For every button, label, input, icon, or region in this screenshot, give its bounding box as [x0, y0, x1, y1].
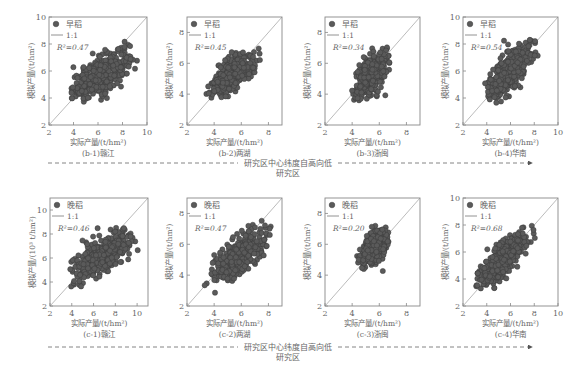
x-tick-label: 4 [212, 128, 217, 137]
x-tick-label: 6 [508, 309, 513, 318]
legend-series-label: 早稻 [480, 19, 496, 29]
x-axis-label: 实际产量/(t/hm²) [206, 137, 263, 147]
x-tick-label: 10 [553, 309, 563, 318]
scatter-panel-c-2: 24682468晚稻1:1R²=0.47实际产量/(t/hm²)模拟产量/(t/… [164, 198, 282, 339]
legend: 晚稻1:1 [327, 200, 358, 221]
x-tick-label: 6 [95, 128, 100, 137]
legend-series-label: 早稻 [342, 19, 358, 29]
x-tick-label: 6 [377, 309, 382, 318]
legend-marker-icon [53, 21, 59, 27]
y-axis-label: 模拟产量/(t/hm²) [302, 42, 312, 99]
y-tick-label: 8 [317, 28, 322, 37]
x-tick-label: 6 [508, 128, 513, 137]
y-tick-label: 8 [179, 28, 184, 37]
y-tick-label: 4 [455, 94, 460, 103]
x-tick-label: 8 [266, 309, 271, 318]
y-tick-label: 6 [179, 240, 184, 249]
x-tick-label: 2 [46, 128, 51, 137]
legend-series-label: 晚稻 [342, 200, 358, 210]
x-tick-label: 8 [113, 309, 118, 318]
r-squared-label: R²=0.54 [470, 43, 503, 52]
legend-series-label: 晚稻 [204, 200, 220, 210]
scatter-panel-b-1: 246810246810早稻1:1R²=0.47实际产量/(t/hm²)模拟产量… [26, 13, 152, 158]
latitude-arrow-top: 研究区中心纬度自高向低 研究区 [48, 158, 532, 178]
x-tick-label: 6 [91, 309, 96, 318]
y-tick-label: 8 [41, 40, 46, 49]
arrow-sublabel-top: 研究区 [276, 168, 300, 178]
y-tick-label: 6 [317, 240, 322, 249]
y-tick-label: 6 [455, 67, 460, 76]
legend: 早稻1:1 [189, 19, 220, 40]
y-tick-label: 4 [179, 271, 184, 280]
panel-caption: (b-1)赣江 [82, 148, 115, 158]
y-tick-label: 4 [41, 94, 46, 103]
y-tick-label: 4 [179, 90, 184, 99]
y-tick-label: 6 [455, 248, 460, 257]
y-tick-label: 4 [317, 271, 322, 280]
panel-caption: (c-2)两湖 [219, 330, 250, 339]
r-squared-label: R²=0.47 [194, 224, 227, 233]
y-tick-label: 4 [42, 278, 47, 287]
legend-line-label: 1:1 [480, 212, 492, 221]
y-tick-label: 8 [317, 209, 322, 218]
data-points [68, 225, 141, 289]
y-tick-label: 8 [455, 221, 460, 230]
data-points [350, 45, 393, 103]
y-axis-label: 模拟产量/(t/hm²) [26, 42, 36, 99]
r-squared-label: R²=0.46 [57, 224, 90, 233]
x-tick-label: 8 [404, 309, 409, 318]
y-tick-label: 6 [42, 254, 47, 263]
y-tick-label: 2 [41, 121, 46, 130]
x-axis-label: 实际产量/(t/hm²) [71, 318, 128, 328]
x-tick-label: 2 [460, 128, 465, 137]
x-tick-label: 4 [212, 309, 217, 318]
legend-series-label: 早稻 [66, 19, 82, 29]
r-squared-label: R²=0.20 [332, 224, 365, 233]
x-tick-label: 8 [532, 309, 537, 318]
legend: 早稻1:1 [327, 19, 358, 40]
legend: 晚稻1:1 [52, 200, 83, 221]
scatter-panel-b-3: 24682468早稻1:1R²=0.34实际产量/(t/hm²)模拟产量/(t/… [302, 17, 420, 158]
x-tick-label: 6 [239, 128, 244, 137]
y-tick-label: 2 [455, 121, 460, 130]
panel-caption: (b-2)两湖 [219, 149, 251, 158]
legend-marker-icon [329, 21, 335, 27]
x-tick-label: 4 [71, 128, 76, 137]
legend-series-label: 晚稻 [67, 200, 83, 210]
x-tick-label: 2 [322, 128, 327, 137]
y-tick-label: 4 [317, 90, 322, 99]
y-tick-label: 2 [179, 121, 184, 130]
y-tick-label: 6 [41, 67, 46, 76]
x-tick-label: 2 [184, 128, 189, 137]
y-axis-label: 模拟产量/(t/hm²) [164, 42, 174, 99]
legend: 早稻1:1 [465, 19, 496, 40]
legend-marker-icon [467, 202, 473, 208]
y-tick-label: 10 [37, 206, 47, 215]
legend-marker-icon [329, 202, 335, 208]
panel-caption: (c-3)浙闽 [357, 329, 388, 339]
scatter-panel-b-2: 24682468早稻1:1R²=0.45实际产量/(t/hm²)模拟产量/(t/… [164, 17, 282, 158]
x-axis-label: 实际产量/(t/hm²) [70, 137, 127, 147]
panel-caption: (c-1)赣江 [83, 329, 115, 339]
scatter-figure: 246810246810早稻1:1R²=0.47实际产量/(t/hm²)模拟产量… [0, 0, 564, 379]
x-tick-label: 4 [69, 309, 74, 318]
arrow-sublabel-bottom: 研究区 [276, 352, 300, 362]
y-axis-label: 模拟产量/(t/hm²) [164, 223, 174, 280]
legend: 早稻1:1 [51, 19, 82, 40]
y-tick-label: 2 [42, 302, 47, 311]
legend: 晚稻1:1 [189, 200, 220, 221]
x-tick-label: 8 [120, 128, 125, 137]
data-points [204, 46, 263, 100]
y-axis-label: 模拟产量/(10³ t/hm²) [27, 216, 37, 288]
scatter-panel-c-1: 246810246810晚稻1:1R²=0.46实际产量/(t/hm²)模拟产量… [27, 198, 148, 339]
y-tick-label: 10 [450, 194, 460, 203]
r-squared-label: R²=0.45 [194, 43, 227, 52]
y-tick-label: 6 [179, 59, 184, 68]
y-axis-label: 模拟产量/(t/hm²) [302, 223, 312, 280]
x-tick-label: 2 [460, 309, 465, 318]
x-axis-label: 实际产量/(t/hm²) [482, 137, 539, 147]
x-tick-label: 8 [266, 128, 271, 137]
y-axis-label: 模拟产量/(t/hm²) [440, 223, 450, 280]
r-squared-label: R²=0.68 [470, 224, 503, 233]
panel-caption: (b-4)华南 [495, 148, 528, 158]
